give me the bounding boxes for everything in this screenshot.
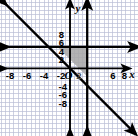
y-tick-label--8: -8 [59,98,67,109]
origin-label: O [65,69,73,81]
x-tick-label--6: -6 [23,70,31,81]
x-tick-label--8: -8 [6,70,14,81]
x-tick-label--4: -4 [40,70,49,81]
y-tick-label-2: 2 [59,54,64,65]
x-tick-label-2: 2 [76,70,81,81]
x-axis-label: x [128,68,135,80]
y-axis-label: y [74,2,81,14]
graph-screenshot: -8 -6 -4 -2 2 6 8 8 6 4 2 -4 -6 -8 O x y [0,0,138,136]
x-tick-label-6: 6 [110,70,115,81]
coordinate-plane-graph: -8 -6 -4 -2 2 6 8 8 6 4 2 -4 -6 -8 O x y [0,0,138,136]
x-tick-label-8: 8 [122,70,127,81]
